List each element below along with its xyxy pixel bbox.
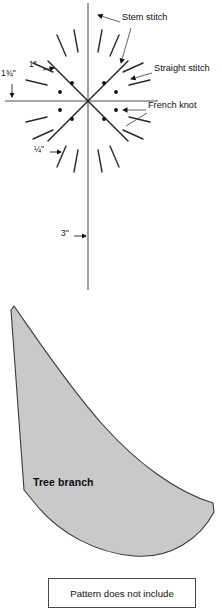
french-knot-dot xyxy=(102,117,106,121)
tree-branch-shape xyxy=(11,306,214,556)
callout-label-french-knot: French knot xyxy=(148,101,197,110)
dimension-label-1-3-4-inch: 1¾" xyxy=(1,69,16,77)
french-knot-dot xyxy=(70,81,74,85)
straight-stitch-mark xyxy=(26,117,47,122)
straight-stitch-mark xyxy=(123,63,143,72)
straight-stitch-mark xyxy=(129,80,150,85)
straight-stitch-mark xyxy=(33,130,53,139)
french-knot-dot xyxy=(58,108,62,112)
straight-stitch-mark xyxy=(57,35,66,56)
straight-stitch-mark xyxy=(123,130,143,139)
dimension-label-3-inch: 3" xyxy=(61,229,69,237)
straight-stitch-mark xyxy=(74,150,78,172)
stem-stitch-ray xyxy=(48,101,88,141)
straight-stitch-mark xyxy=(57,146,66,167)
straight-stitch-mark xyxy=(110,35,119,56)
pattern-note-text: Pattern does not include xyxy=(49,588,195,599)
french-knot-dot xyxy=(70,117,74,121)
callout-label-straight-stitch: Straight stitch xyxy=(154,64,210,73)
pattern-note-box: Pattern does not include xyxy=(48,578,196,608)
straight-stitch-mark xyxy=(26,80,47,85)
straight-stitch-mark xyxy=(98,150,102,172)
stem-stitch-ray xyxy=(88,61,128,101)
leader-straight-stitch xyxy=(131,73,152,79)
tree-branch-label: Tree branch xyxy=(33,476,94,488)
stem-stitch-ray xyxy=(48,61,88,101)
leader-french-knot-lower xyxy=(126,113,147,126)
french-knot-dot xyxy=(102,81,106,85)
dimension-leaders xyxy=(12,68,86,236)
straight-stitch-mark xyxy=(98,30,102,52)
leader-stem-stitch-lower xyxy=(121,28,131,63)
callout-label-stem-stitch: Stem stitch xyxy=(122,13,167,22)
french-knot-dot xyxy=(114,90,118,94)
french-knot-dot xyxy=(58,90,62,94)
french-knot-dot xyxy=(114,108,118,112)
dimension-label-1-inch: 1" xyxy=(29,60,37,68)
straight-stitch-mark xyxy=(74,30,78,52)
diagram-axes xyxy=(5,3,158,290)
straight-stitch-mark xyxy=(110,146,119,167)
stem-stitch-ray xyxy=(88,101,128,141)
leader-stem-stitch-upper xyxy=(98,15,120,22)
dimension-label-1-4-inch: ¼" xyxy=(34,145,44,153)
